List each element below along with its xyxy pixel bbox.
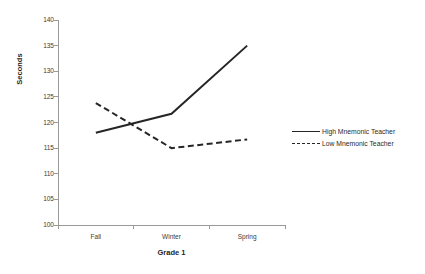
x-axis-tick-label: Fall: [91, 233, 101, 241]
x-axis-title: Grade 1: [58, 248, 285, 257]
chart-figure: Seconds 100105110115120125130135140 Fall…: [0, 0, 425, 274]
x-axis-tick-label: Winter: [162, 233, 181, 241]
legend-line-solid-icon: [291, 127, 321, 137]
legend-label: Low Mnemonic Teacher: [321, 139, 394, 149]
legend-item-low-mnemonic-teacher: Low Mnemonic Teacher: [291, 138, 423, 150]
x-axis-tick-label: Spring: [238, 233, 257, 241]
legend-label: High Mnemonic Teacher: [321, 127, 395, 137]
legend-item-high-mnemonic-teacher: High Mnemonic Teacher: [291, 126, 423, 138]
legend-line-dashed-icon: [291, 139, 321, 149]
chart-legend: High Mnemonic Teacher Low Mnemonic Teach…: [291, 126, 423, 150]
